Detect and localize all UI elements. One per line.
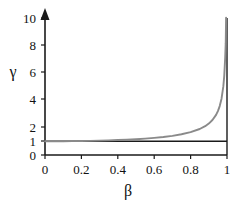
y-tick-label-2: 2 [10, 121, 36, 134]
y-tick-label-8: 8 [10, 39, 36, 52]
axis-lines [41, 8, 228, 155]
lorentz-factor-chart: 10 8 6 4 2 1 0 0 0.2 0.4 0.6 0.8 1 γ β [0, 0, 240, 208]
x-tick-label-0-2: 0.2 [66, 163, 96, 176]
x-tick-label-0-8: 0.8 [176, 163, 206, 176]
x-axis-title: β [113, 183, 143, 199]
x-tick-label-0-4: 0.4 [103, 163, 133, 176]
x-tick-label-0: 0 [30, 163, 60, 176]
x-tick-label-1: 1 [212, 163, 240, 176]
y-axis-title: γ [4, 64, 22, 80]
gamma-curve-line [45, 18, 226, 141]
y-tick-label-1: 1 [10, 135, 36, 148]
x-tick-label-0-6: 0.6 [139, 163, 169, 176]
y-tick-label-10: 10 [10, 12, 36, 25]
y-tick-label-0: 0 [10, 149, 36, 162]
y-tick-label-4: 4 [10, 93, 36, 106]
